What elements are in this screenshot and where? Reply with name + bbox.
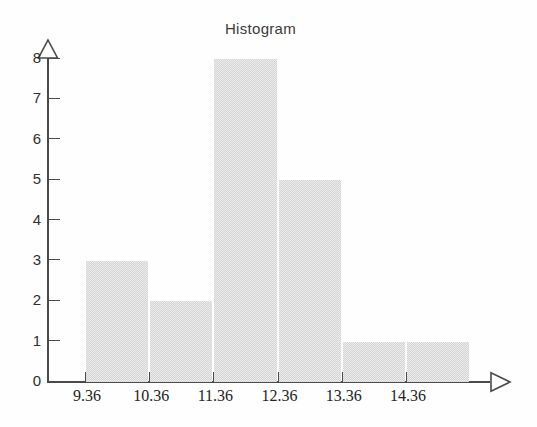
bars-container: [48, 58, 490, 382]
y-axis-tick-label: 6: [7, 131, 41, 146]
y-axis-tick-label: 2: [7, 292, 41, 307]
y-axis-labels: 012345678: [0, 0, 41, 427]
histogram-bar: [343, 342, 405, 382]
y-axis-tick-label: 8: [7, 50, 41, 65]
chart-title: Histogram: [0, 20, 537, 37]
chart-title-text: Histogram: [225, 20, 296, 37]
x-axis-tick-label: 14.36: [368, 388, 448, 404]
histogram-chart: Histogram 012345678 9.3610.3611.3612.361…: [0, 0, 537, 427]
histogram-bar: [407, 342, 469, 382]
histogram-bar: [86, 261, 148, 382]
y-axis-tick-label: 0: [7, 373, 41, 388]
y-axis-tick-label: 4: [7, 212, 41, 227]
y-axis-tick-label: 3: [7, 252, 41, 267]
x-axis-arrow-icon: [488, 371, 512, 393]
y-axis-tick-label: 7: [7, 90, 41, 105]
histogram-bar: [150, 301, 212, 382]
histogram-bar: [214, 59, 276, 382]
y-axis-tick-label: 1: [7, 333, 41, 348]
y-axis-tick-label: 5: [7, 171, 41, 186]
histogram-bar: [279, 180, 341, 382]
